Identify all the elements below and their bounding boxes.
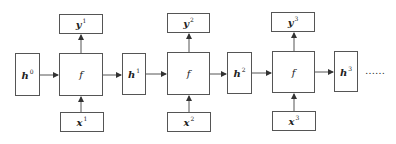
hidden-state-h1: h1 — [122, 53, 146, 95]
function-box-f1: f — [59, 53, 103, 96]
y2-label: y2 — [183, 17, 194, 29]
h2-label: h2 — [233, 67, 245, 79]
h1-label: h1 — [128, 68, 140, 80]
x1-label: x1 — [77, 116, 88, 128]
y1-label: y1 — [76, 18, 87, 30]
h0-label: h0 — [21, 69, 33, 81]
hidden-state-h0: h0 — [15, 53, 40, 96]
input-box-x1: x1 — [60, 112, 104, 132]
function-box-f3: f — [272, 51, 315, 93]
input-box-x3: x3 — [272, 111, 316, 131]
y3-label: y3 — [288, 16, 299, 28]
function-box-f2: f — [167, 52, 210, 95]
continuation-ellipsis: …… — [365, 65, 385, 76]
input-box-x2: x2 — [167, 112, 211, 132]
x2-label: x2 — [184, 116, 195, 128]
f1-label: f — [79, 69, 83, 80]
h3-label: h3 — [340, 66, 352, 78]
output-box-y2: y2 — [167, 13, 210, 33]
hidden-state-h3: h3 — [334, 51, 358, 92]
x3-label: x3 — [289, 115, 300, 127]
output-box-y3: y3 — [271, 12, 315, 32]
output-box-y1: y1 — [59, 14, 103, 34]
f3-label: f — [292, 67, 296, 78]
f2-label: f — [187, 68, 191, 79]
hidden-state-h2: h2 — [227, 52, 252, 94]
